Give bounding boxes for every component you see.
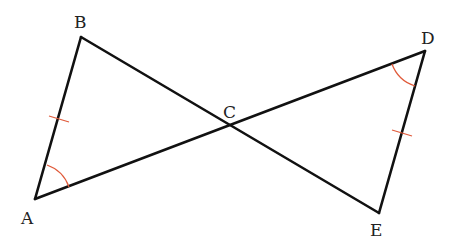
label-d: D [421,28,435,48]
angle-mark-a [47,165,69,187]
label-e: E [370,220,382,240]
triangle-diagram: B A C D E [0,0,452,251]
segment-ad [35,51,425,199]
label-c: C [223,102,236,122]
segment-ab [35,37,81,199]
label-a: A [20,208,34,228]
angle-mark-d [392,64,415,86]
label-b: B [74,12,87,32]
segment-de [379,51,425,213]
